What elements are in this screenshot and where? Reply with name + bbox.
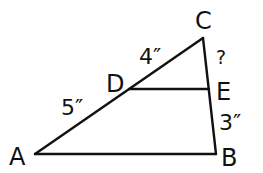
unknown-length-label-ce: ? <box>216 46 226 68</box>
length-label-eb: 3″ <box>219 110 241 135</box>
vertex-label-a: A <box>9 143 26 171</box>
length-label-cd: 4″ <box>139 44 161 69</box>
vertex-label-c: C <box>195 7 212 35</box>
triangle-diagram: C D E A B 4″ 5″ 3″ ? <box>0 0 263 173</box>
length-label-da: 5″ <box>61 95 83 120</box>
side-CB <box>203 38 216 154</box>
vertex-label-e: E <box>216 78 231 106</box>
vertex-label-d: D <box>106 70 124 98</box>
vertex-label-b: B <box>221 144 237 172</box>
